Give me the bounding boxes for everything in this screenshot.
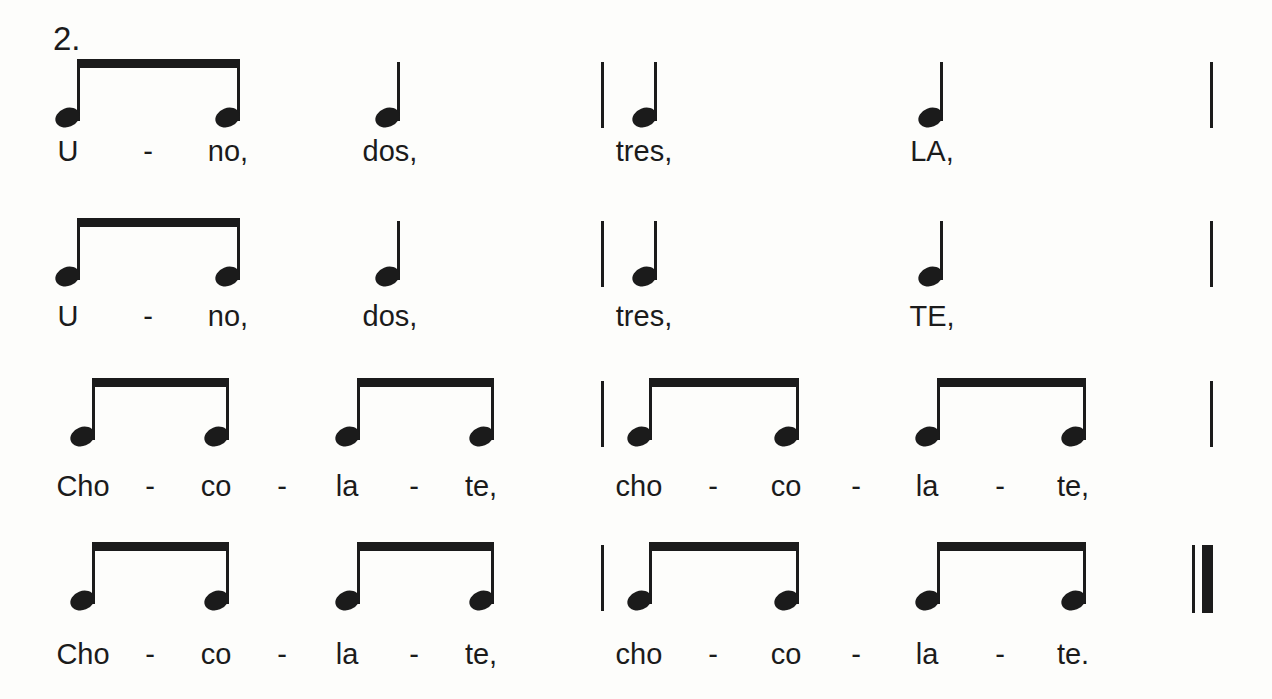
lyric-hyphen: - [708,639,718,669]
score: U-no,dos,tres,LA,U-no,dos,tres,TE,Cho-co… [0,0,1272,699]
lyric-syllable: cho [616,639,663,669]
lyric-syllable: te, [465,639,497,669]
lyric-hyphen: - [995,639,1005,669]
rhythm-exercise-sheet: 2. U-no,dos,tres,LA,U-no,dos,tres,TE,Cho… [0,0,1272,699]
lyric-syllable: te. [1057,639,1089,669]
lyric-hyphen: - [851,639,861,669]
notation-row-line-4: Cho-co-la-te,cho-co-la-te. [0,0,1272,699]
lyric-hyphen: - [145,639,155,669]
lyric-line: Cho-co-la-te,cho-co-la-te. [0,0,1272,699]
lyric-syllable: co [201,639,232,669]
lyric-hyphen: - [409,639,419,669]
lyric-syllable: Cho [56,639,109,669]
lyric-hyphen: - [277,639,287,669]
lyric-syllable: co [771,639,802,669]
lyric-syllable: la [336,639,359,669]
lyric-syllable: la [916,639,939,669]
